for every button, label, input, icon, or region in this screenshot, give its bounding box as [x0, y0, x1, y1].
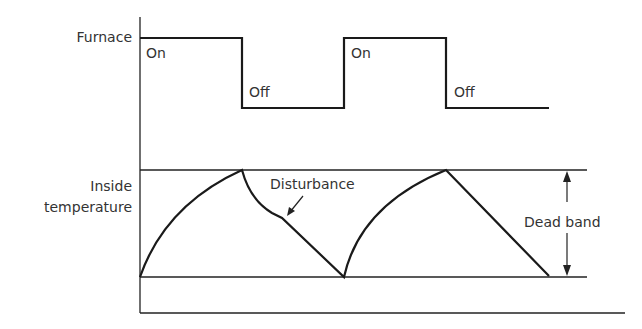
furnace-label: Furnace [60, 29, 132, 45]
state-on-1: On [146, 45, 166, 61]
furnace-signal [140, 38, 549, 108]
diagram-canvas [0, 0, 642, 329]
inside-label: Inside [30, 178, 132, 194]
temperature-label: temperature [20, 199, 132, 215]
dead-band-label: Dead band [524, 214, 601, 230]
state-off-1: Off [249, 84, 270, 100]
dead-band-arrowhead-down [563, 265, 571, 276]
dead-band-arrowhead-up [563, 171, 571, 182]
disturbance-label: Disturbance [270, 176, 355, 192]
state-on-2: On [351, 45, 371, 61]
disturbance-arrowhead [287, 207, 295, 216]
state-off-2: Off [454, 84, 475, 100]
